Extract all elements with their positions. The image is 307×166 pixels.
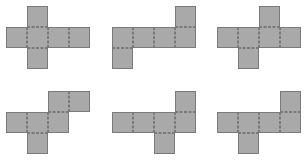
net-face <box>133 27 154 48</box>
net-face <box>27 112 48 133</box>
net-face <box>238 27 259 48</box>
net-face <box>112 48 133 69</box>
net-face <box>217 112 238 133</box>
net-face <box>259 27 280 48</box>
net-face <box>280 91 301 112</box>
net-face <box>69 91 90 112</box>
net-face <box>6 27 27 48</box>
net-face <box>259 112 280 133</box>
net-face <box>6 112 27 133</box>
net-face <box>48 112 69 133</box>
net-face <box>154 27 175 48</box>
net-face <box>27 6 48 27</box>
net-face <box>175 27 196 48</box>
net-face <box>175 112 196 133</box>
net-face <box>238 48 259 69</box>
net-face <box>154 133 175 154</box>
net-face <box>133 112 154 133</box>
net-face <box>27 48 48 69</box>
net-face <box>69 27 90 48</box>
net-face <box>112 112 133 133</box>
net-face <box>175 91 196 112</box>
net-face <box>48 91 69 112</box>
net-face <box>238 133 259 154</box>
net-face <box>154 112 175 133</box>
net-face <box>280 27 301 48</box>
net-face <box>27 27 48 48</box>
net-face <box>48 27 69 48</box>
net-face <box>112 27 133 48</box>
net-face <box>175 6 196 27</box>
net-face <box>238 112 259 133</box>
net-face <box>27 133 48 154</box>
net-face <box>259 6 280 27</box>
net-face <box>217 27 238 48</box>
net-face <box>280 112 301 133</box>
